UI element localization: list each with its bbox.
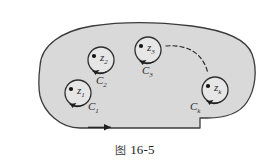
singular-point-dot-1: [69, 87, 73, 91]
figure-caption: 图 16-5: [0, 136, 270, 164]
singular-point-dot-3: [139, 44, 143, 48]
figure-caption-number: 16-5: [130, 142, 155, 158]
singular-point-dot-2: [92, 54, 96, 58]
figure-container: z1 C1 z2 C2: [0, 0, 270, 167]
figure-caption-glyph: 图: [115, 145, 126, 156]
singular-point-dot-k: [206, 84, 210, 88]
